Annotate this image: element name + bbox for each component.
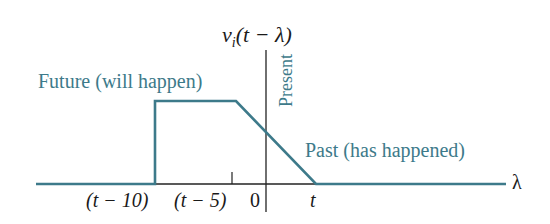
tick-label-t-minus-5: (t − 5) [174, 189, 226, 212]
diagram-title: vi(t − λ) [222, 22, 292, 51]
past-label: Past (has happened) [305, 139, 465, 162]
tick-label-t-minus-10: (t − 10) [86, 189, 148, 212]
present-label: Present [276, 49, 297, 113]
lambda-axis-label: λ [512, 171, 522, 194]
future-label: Future (will happen) [38, 70, 202, 93]
tick-label-t: t [310, 189, 316, 212]
signal-diagram: vi(t − λ) Future (will happen) Past (has… [0, 0, 550, 224]
tick-label-zero: 0 [250, 189, 260, 212]
